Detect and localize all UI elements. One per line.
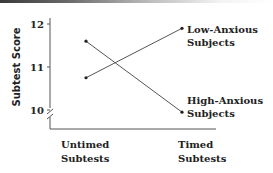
y-ticks: 12 11 10: [30, 19, 50, 116]
y-tick-label: 11: [30, 62, 44, 73]
y-axis-label: Subtest Score: [11, 27, 22, 106]
x-category-label-timed-line2: Subtests: [178, 153, 227, 164]
x-category-label-timed: Timed: [178, 139, 213, 150]
series-label-low-anxious: Low-Anxious: [187, 24, 258, 35]
data-point: [180, 27, 183, 30]
series-label-high-anxious-line2: Subjects: [187, 108, 235, 119]
x-category-label-untimed-line2: Subtests: [61, 153, 110, 164]
interaction-line-chart: Subtest Score 12 11 10 Low-Anxious Subje…: [0, 0, 273, 173]
y-tick-label: 10: [30, 105, 44, 116]
series-layer: [84, 27, 183, 114]
y-tick-label: 12: [30, 19, 44, 30]
series-line-1: [86, 41, 182, 112]
data-point: [180, 111, 183, 114]
series-label-high-anxious: High-Anxious: [187, 95, 263, 106]
x-category-label-untimed: Untimed: [61, 139, 109, 150]
data-point: [84, 40, 87, 43]
data-point: [84, 76, 87, 79]
series-line-0: [86, 28, 182, 77]
series-label-low-anxious-line2: Subjects: [187, 37, 235, 48]
